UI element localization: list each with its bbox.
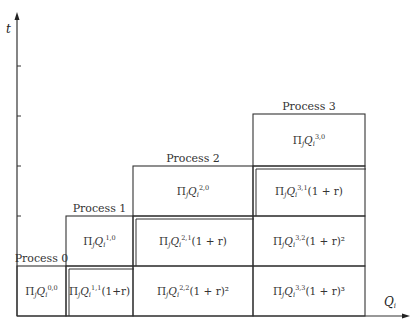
cell-formula-c22: ΠjQi2,2(1 + r)² bbox=[157, 284, 229, 299]
process-label-2: Process 2 bbox=[166, 152, 220, 165]
cell-formula-c30: ΠjQi3,0 bbox=[293, 133, 326, 148]
y-axis-arrowhead bbox=[15, 12, 20, 20]
cell-formula-c32: ΠjQi3,2(1 + r)² bbox=[273, 234, 345, 249]
diagram-canvas: t Qi ΠjQi0,0ΠjQi1,0ΠjQi1,1(1+r)ΠjQi2,0Πj… bbox=[0, 0, 419, 329]
x-axis-label-sub: i bbox=[394, 302, 396, 310]
cell-formula-c11: ΠjQi1,1(1+r) bbox=[69, 284, 130, 299]
x-axis-label: Qi bbox=[384, 295, 396, 310]
process-staircase-diagram: t Qi ΠjQi0,0ΠjQi1,0ΠjQi1,1(1+r)ΠjQi2,0Πj… bbox=[0, 0, 419, 329]
process-label-3: Process 3 bbox=[282, 100, 336, 113]
cell-formula-c10: ΠjQi1,0 bbox=[83, 234, 116, 249]
x-axis-arrowhead bbox=[402, 314, 410, 319]
cell-formula-c31: ΠjQi3,1(1 + r) bbox=[275, 184, 343, 199]
process-label-0: Process 0 bbox=[15, 252, 69, 265]
cell-formula-c20: ΠjQi2,0 bbox=[177, 184, 210, 199]
x-axis-label-main: Q bbox=[384, 295, 394, 309]
process-label-1: Process 1 bbox=[73, 202, 127, 215]
y-axis-label: t bbox=[6, 22, 11, 36]
cell-formula-c00: ΠjQi0,0 bbox=[25, 284, 58, 299]
cell-formula-c33: ΠjQi3,3(1 + r)³ bbox=[273, 284, 345, 299]
cell-formula-c21: ΠjQi2,1(1 + r) bbox=[159, 234, 227, 249]
